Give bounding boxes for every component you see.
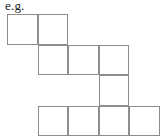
cell-r2c3 — [68, 45, 99, 76]
cell-r4c2 — [38, 106, 69, 137]
cell-r4c5 — [129, 106, 160, 137]
cell-r4c3 — [68, 106, 99, 137]
cell-r1c2 — [38, 14, 69, 45]
cell-r2c4 — [99, 45, 130, 76]
polyomino-figure — [0, 0, 161, 139]
cell-r2c2 — [38, 45, 69, 76]
cell-r3c4 — [99, 75, 130, 106]
cell-r4c4 — [99, 106, 130, 137]
figure-page: e.g. — [0, 0, 161, 139]
cell-r1c1 — [7, 14, 38, 45]
